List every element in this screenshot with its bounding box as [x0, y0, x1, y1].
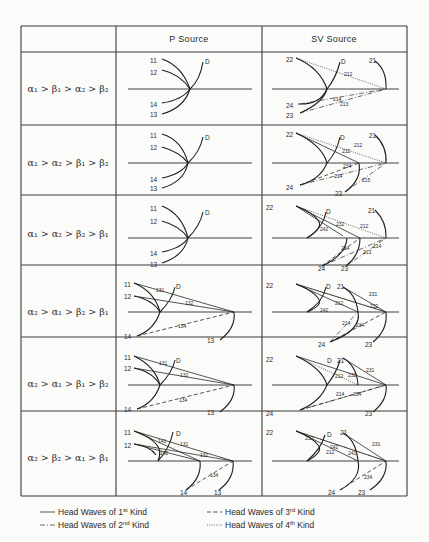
head-wave-label: 214: [334, 173, 343, 179]
wave-label: 12: [150, 144, 158, 151]
head-wave-diagram-figure: P Source SV Source α₁ > β₁ > α₂ > β₂ α₁ …: [0, 0, 429, 542]
wavefront-curve: [375, 210, 386, 238]
header-p-source: P Source: [169, 34, 208, 44]
wave-label: 24: [266, 410, 274, 417]
wavefront-curve: [162, 238, 188, 263]
wave-label: 12: [150, 69, 158, 76]
wavefront-curve: [375, 135, 386, 163]
wavefront-curve: [373, 385, 386, 412]
wave-label: 13: [214, 489, 222, 496]
head-wave-label: 132: [180, 372, 189, 378]
header-sv-source: SV Source: [311, 34, 357, 44]
head-wave-label: 214: [373, 243, 382, 249]
p-source-diagram-row-3: 11121413D: [128, 205, 252, 268]
wave-label: D: [176, 430, 181, 437]
wavefront-curve: [300, 62, 340, 113]
wave-label: D: [327, 357, 332, 364]
wavefront-curve: [162, 238, 188, 252]
head-wave-label: 232: [348, 372, 357, 378]
head-wave-label: 213: [340, 101, 349, 107]
wavefront-curve: [296, 284, 320, 312]
wave-label: 24: [286, 184, 294, 191]
sv-source-diagram-row-2: 22D212423212232234214215: [272, 131, 399, 197]
p-source-diagram-row-6: 1112D1413141131142132134: [124, 429, 252, 496]
wavefront-curve: [162, 59, 190, 89]
head-wave-label: 234: [341, 245, 350, 251]
wave-label: 13: [150, 185, 158, 192]
head-wave-label: 134: [210, 472, 219, 478]
head-wave-label: 232: [342, 148, 351, 154]
wave-label: D: [176, 357, 181, 364]
head-wave-label: 141: [158, 438, 167, 444]
wave-label: 11: [150, 205, 157, 212]
wave-label: D: [176, 283, 181, 290]
velocity-conditions-column: α₁ > β₁ > α₂ > β₂ α₁ > α₂ > β₁ > β₂ α₁ >…: [27, 83, 108, 463]
head-wave-label: 214: [342, 320, 351, 326]
wave-label: 23: [286, 112, 294, 119]
sv-source-diagram-row-1: 22D212423212214213: [272, 56, 399, 119]
wave-label: 11: [150, 132, 157, 139]
head-wave-label: 231: [372, 441, 381, 447]
wavefront-curve: [370, 461, 386, 490]
head-wave-label: 212: [344, 71, 353, 77]
wave-label: D: [326, 208, 331, 215]
head-wave-label: 234: [343, 163, 352, 169]
wave-label: D: [205, 58, 210, 65]
legend-item-kind-1: Head Waves of 1st Kind: [40, 507, 147, 517]
wavefront-curve: [188, 137, 203, 163]
wavefront-curve: [220, 312, 234, 340]
head-wave-label: 212: [360, 223, 369, 229]
legend-label: Head Waves of 4th Kind: [225, 520, 315, 530]
head-wave-label: 212: [326, 449, 335, 455]
wave-label: 21: [337, 283, 345, 290]
wavefront-curve: [190, 62, 203, 89]
wave-label: 23: [358, 489, 366, 496]
p-source-diagram-row-4: 1112D1413131132134: [124, 281, 252, 344]
wave-label: 11: [124, 429, 131, 436]
sv-source-diagram-row-4: 22D212423231212242232214234: [266, 282, 399, 348]
wavefront-curve: [162, 89, 190, 103]
head-wave-label: 142: [160, 450, 169, 456]
wavefront-curve: [296, 206, 320, 238]
wave-label: 22: [266, 204, 274, 211]
head-wave-label: 234: [356, 322, 365, 328]
wavefront-curve: [162, 221, 188, 238]
wavefront-curve: [134, 356, 160, 409]
wave-label: 13: [150, 261, 158, 268]
wavefront-curve: [375, 61, 386, 89]
condition-row-1: α₁ > β₁ > α₂ > β₂: [27, 83, 108, 94]
wave-label: 13: [207, 337, 215, 344]
wavefront-curve: [162, 163, 188, 188]
wave-label: 11: [124, 281, 131, 288]
wave-label: 14: [124, 406, 132, 413]
legend-label: Head Waves of 3rd Kind: [225, 507, 315, 517]
head-wave-line: [134, 283, 234, 312]
wave-label: 24: [286, 102, 294, 109]
wavefront-curve: [220, 385, 234, 412]
sv-source-diagram-row-5: 22D212423231232212214234: [266, 356, 399, 417]
wave-label: 24: [328, 489, 336, 496]
head-wave-label: 134: [179, 397, 188, 403]
legend-label: Head Waves of 1st Kind: [58, 507, 147, 517]
head-wave-label: 213: [363, 249, 372, 255]
wavefront-curve: [346, 238, 360, 266]
condition-row-6: α₂ > β₂ > α₁ > β₁: [27, 452, 108, 463]
head-wave-label: 231: [366, 367, 375, 373]
sv-source-diagram-row-6: 22D212423232242212241231234: [266, 429, 399, 496]
wavefront-curve: [162, 163, 188, 178]
wave-label: 23: [335, 190, 343, 197]
wavefront-curve: [162, 89, 190, 114]
head-wave-label: 212: [335, 373, 344, 379]
condition-row-3: α₁ > α₂ > β₂ > β₁: [27, 228, 108, 239]
condition-row-2: α₁ > α₂ > β₁ > β₂: [27, 157, 108, 168]
wave-label: D: [205, 209, 210, 216]
legend-item-kind-4: Head Waves of 4th Kind: [207, 520, 315, 530]
table-grid: [21, 26, 407, 496]
wave-label: D: [340, 134, 345, 141]
wave-label: 12: [124, 442, 132, 449]
wave-label: 23: [365, 341, 373, 348]
head-wave-label: 242: [320, 226, 329, 232]
p-source-diagram-row-1: 11121413D: [128, 57, 252, 118]
wave-label: 21: [340, 429, 348, 436]
head-wave-label: 232: [336, 221, 345, 227]
